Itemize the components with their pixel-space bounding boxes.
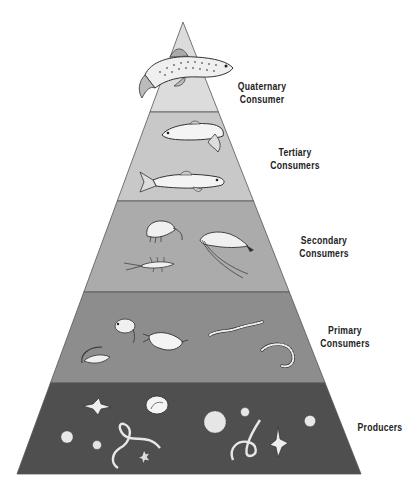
tier-label-producers: Producers <box>353 421 407 434</box>
tier-label-quaternary: Quaternary Consumer <box>229 80 295 106</box>
label-line: Primary <box>312 324 378 337</box>
diatom-icon <box>146 396 168 414</box>
tier-label-tertiary: Tertiary Consumers <box>262 146 328 172</box>
tier-label-primary: Primary Consumers <box>312 324 378 350</box>
label-line: Consumer <box>229 93 295 106</box>
label-line: Quaternary <box>229 80 295 93</box>
algae-colony-icon <box>204 411 226 433</box>
tier-secondary <box>84 201 289 292</box>
label-line: Consumers <box>291 247 357 260</box>
label-line: Consumers <box>262 159 328 172</box>
label-line: Secondary <box>291 234 357 247</box>
spiky-cell-icon <box>61 431 73 443</box>
label-line: Tertiary <box>262 146 328 159</box>
tier-label-secondary: Secondary Consumers <box>291 234 357 260</box>
tier-primary <box>50 292 325 383</box>
tier-producers <box>17 383 361 474</box>
food-pyramid-diagram: Quaternary Consumer Tertiary Consumers S… <box>0 0 411 483</box>
small-cell-icon <box>93 441 102 450</box>
cell-icon <box>241 408 250 417</box>
label-line: Producers <box>353 421 407 434</box>
label-line: Consumers <box>312 337 378 350</box>
star-algae-icon <box>305 416 316 427</box>
